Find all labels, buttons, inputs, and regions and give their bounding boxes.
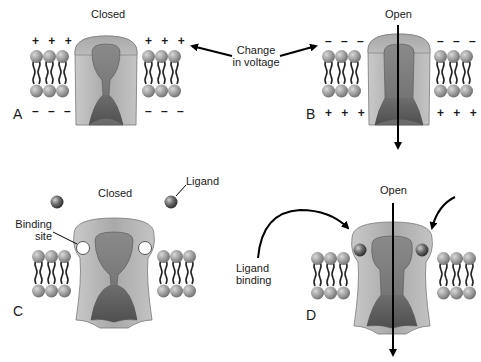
binding-site-label: Binding site bbox=[14, 218, 52, 242]
ligand-molecule bbox=[51, 196, 64, 209]
panel-a-right-top-charges: + + + bbox=[145, 34, 188, 48]
ligand-leader-line bbox=[176, 185, 186, 196]
membrane-lipids-right bbox=[437, 252, 476, 300]
panel-d bbox=[258, 197, 476, 355]
panel-a-left-top-charges: + + + bbox=[32, 34, 75, 48]
panel-letter-a: A bbox=[13, 106, 22, 122]
panel-letter-d: D bbox=[306, 307, 316, 323]
panel-b-right-top-charges: – – – bbox=[437, 34, 479, 48]
arrow-to-panel-a bbox=[192, 46, 232, 56]
panel-b-left-top-charges: – – – bbox=[325, 34, 367, 48]
panel-b-state-label: Open bbox=[385, 8, 412, 20]
panel-a-right-bottom-charges: – – – bbox=[145, 104, 187, 118]
panel-a-left-bottom-charges: – – – bbox=[32, 104, 74, 118]
membrane-lipids-left bbox=[30, 50, 69, 98]
panel-a-state-label: Closed bbox=[91, 8, 125, 20]
binding-site-right bbox=[139, 242, 152, 255]
panel-b-left-bottom-charges: + + + bbox=[325, 106, 368, 120]
bound-ligand-left bbox=[354, 244, 367, 257]
panel-letter-b: B bbox=[306, 106, 315, 122]
panel-letter-c: C bbox=[13, 303, 23, 319]
membrane-lipids-right bbox=[142, 50, 181, 98]
panel-c bbox=[32, 185, 196, 328]
panel-d-state-label: Open bbox=[380, 184, 407, 196]
membrane-lipids-right bbox=[157, 250, 196, 298]
voltage-channel-closed bbox=[75, 36, 137, 125]
membrane-lipids-right bbox=[434, 50, 473, 98]
ligand-binding-arrow-right bbox=[432, 197, 455, 228]
arrow-to-panel-b bbox=[280, 46, 316, 56]
membrane-lipids-left bbox=[311, 252, 350, 300]
binding-site-left bbox=[77, 242, 90, 255]
ion-channel-figure: Closed Open Closed Open A B C D + + + + … bbox=[0, 0, 481, 362]
membrane-lipids-left bbox=[32, 250, 71, 298]
change-in-voltage-label: Change in voltage bbox=[228, 44, 284, 68]
ligand-label: Ligand bbox=[186, 175, 219, 187]
ligand-molecule bbox=[165, 196, 178, 209]
panel-b-right-bottom-charges: + + + bbox=[437, 106, 480, 120]
ligand-binding-label: Ligand binding bbox=[236, 262, 271, 286]
bound-ligand-right bbox=[416, 244, 429, 257]
panel-c-state-label: Closed bbox=[98, 187, 132, 199]
ligand-binding-arrow-left bbox=[258, 210, 348, 258]
membrane-lipids-left bbox=[322, 50, 361, 98]
ligand-channel-closed bbox=[74, 218, 155, 328]
